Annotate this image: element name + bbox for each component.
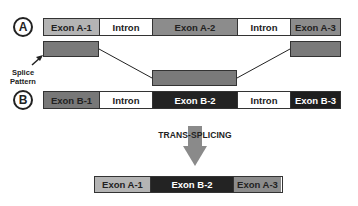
trans-splicing-label: TRANS-SPLICING: [150, 130, 240, 140]
result-exon-a3: Exon A-3: [234, 177, 281, 192]
result-exon-a1-label: Exon A-1: [102, 179, 143, 190]
result-exon-a3-label: Exon A-3: [237, 179, 278, 190]
result-exon-b2: Exon B-2: [151, 177, 234, 192]
result-mrna-bar: Exon A-1 Exon B-2 Exon A-3: [94, 176, 283, 193]
result-exon-a1: Exon A-1: [95, 177, 151, 192]
result-exon-b2-label: Exon B-2: [171, 179, 212, 190]
